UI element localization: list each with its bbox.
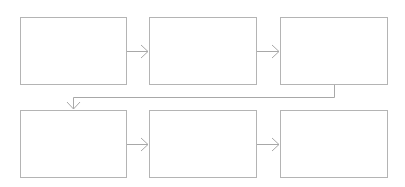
- arrow-right-icon: [257, 138, 279, 151]
- elbow-arrow-down-icon: [67, 85, 335, 109]
- process-flow-diagram: [0, 0, 405, 187]
- arrow-right-icon: [127, 138, 148, 151]
- connectors-layer: [0, 0, 405, 187]
- arrow-right-icon: [257, 45, 279, 58]
- arrow-right-icon: [127, 45, 148, 58]
